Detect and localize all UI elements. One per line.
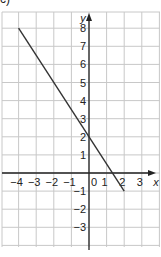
x-tick-label: −4 xyxy=(10,176,23,188)
y-tick-label: 1 xyxy=(80,149,86,161)
y-axis-arrow-icon xyxy=(86,13,92,21)
x-axis-label: x xyxy=(152,176,159,188)
x-tick-label: −3 xyxy=(28,176,41,188)
x-tick-label: −2 xyxy=(46,176,59,188)
y-tick-label: 2 xyxy=(80,131,86,143)
y-tick-label: 5 xyxy=(80,77,86,89)
y-tick-label: 6 xyxy=(80,58,86,70)
x-tick-label: 1 xyxy=(102,176,108,188)
y-tick-label: −2 xyxy=(73,203,86,215)
line-graph: −4−3−2−10123−3−2−112345678xy xyxy=(0,0,161,257)
y-tick-label: 7 xyxy=(80,40,86,52)
y-tick-label: −3 xyxy=(73,221,86,233)
y-axis-label: y xyxy=(79,12,87,24)
y-tick-label: 4 xyxy=(80,95,86,107)
x-tick-label: 3 xyxy=(137,176,143,188)
x-tick-label: 0 xyxy=(91,176,97,188)
x-tick-label: 2 xyxy=(119,176,125,188)
y-tick-label: −1 xyxy=(73,185,86,197)
y-tick-label: 8 xyxy=(80,22,86,34)
